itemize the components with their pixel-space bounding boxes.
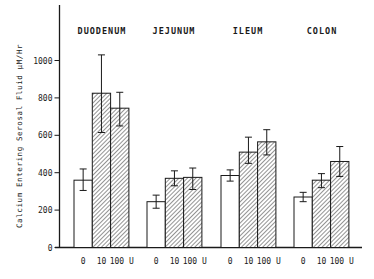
group-label: COLON	[307, 26, 338, 36]
x-tick-label: 10	[170, 257, 180, 266]
y-tick-label: 0	[48, 244, 53, 253]
x-tick-label: 100 U	[110, 257, 134, 266]
bar	[221, 176, 239, 248]
x-tick-label: 100 U	[257, 257, 281, 266]
y-tick-label: 800	[38, 94, 53, 103]
x-tick-label: 10	[244, 257, 254, 266]
y-tick-label: 400	[38, 169, 53, 178]
bar-chart: Calcium Entering Serosal Fluid µM/Hr 020…	[0, 0, 374, 279]
y-axis-label: Calcium Entering Serosal Fluid µM/Hr	[15, 44, 24, 228]
bar	[239, 152, 257, 247]
y-axis-title: Calcium Entering Serosal Fluid µM/Hr	[15, 44, 24, 228]
group-labels: DUODENUMJEJUNUMILEUMCOLON	[78, 26, 338, 36]
y-tick-label: 600	[38, 131, 53, 140]
bars	[74, 55, 349, 248]
group-label: DUODENUM	[78, 26, 127, 36]
x-tick-label: 10	[97, 257, 107, 266]
bar	[111, 108, 129, 247]
x-tick-label: 0	[154, 257, 159, 266]
group-label: ILEUM	[233, 26, 264, 36]
x-tick-label: 100 U	[183, 257, 207, 266]
x-tick-label: 10	[317, 257, 327, 266]
x-axis-tick-labels: 010100 U010100 U010100 U010100 U	[81, 257, 354, 266]
x-tick-label: 0	[228, 257, 233, 266]
bar	[258, 142, 276, 248]
bar	[312, 180, 330, 247]
group-label: JEJUNUM	[153, 26, 196, 36]
x-tick-label: 0	[301, 257, 306, 266]
x-tick-label: 100 U	[330, 257, 354, 266]
y-tick-label: 1000	[33, 57, 52, 66]
y-tick-label: 200	[38, 206, 53, 215]
x-tick-label: 0	[81, 257, 86, 266]
bar	[294, 197, 312, 247]
bar	[165, 178, 183, 247]
y-axis-ticks: 02004006008001000	[33, 57, 59, 253]
